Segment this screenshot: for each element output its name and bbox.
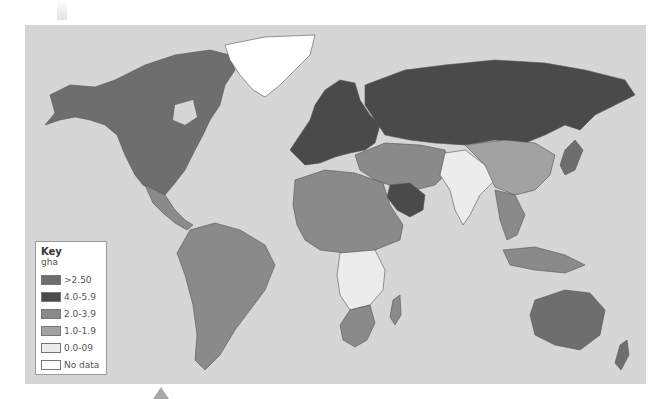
region-south-america [177,223,275,370]
legend-swatch [41,275,61,285]
map-legend: Key gha >2.50 4.0-5.9 2.0-3.9 1.0-1.9 0.… [35,241,107,375]
legend-label: 4.0-5.9 [64,292,96,302]
decorative-mark [57,0,67,20]
region-africa-south [340,305,375,347]
region-japan [560,140,583,175]
legend-item: 0.0-09 [41,339,101,356]
legend-swatch [41,292,61,302]
legend-item: >2.50 [41,271,101,288]
region-russia [365,60,635,145]
legend-swatch [41,309,61,319]
legend-label: >2.50 [64,275,92,285]
map-svg [25,25,646,384]
legend-item: 1.0-1.9 [41,322,101,339]
region-southeast-asia [495,190,525,240]
legend-label: 0.0-09 [64,343,93,353]
legend-label: 1.0-1.9 [64,326,96,336]
world-map [25,25,646,384]
region-greenland [225,35,315,97]
legend-swatch [41,326,61,336]
pointer-triangle-icon [153,387,169,399]
legend-swatch [41,343,61,353]
legend-title: Key [41,246,101,257]
region-central-america [145,185,193,230]
region-north-america [45,50,235,195]
legend-item: 4.0-5.9 [41,288,101,305]
legend-label: 2.0-3.9 [64,309,96,319]
region-australia [530,290,605,350]
legend-swatch [41,360,61,370]
legend-unit: gha [41,257,101,268]
region-indonesia [503,247,585,273]
legend-label: No data [64,360,99,370]
region-madagascar [390,295,401,325]
legend-item: No data [41,356,101,373]
region-new-zealand [615,340,629,370]
legend-item: 2.0-3.9 [41,305,101,322]
region-africa-central [337,250,385,310]
